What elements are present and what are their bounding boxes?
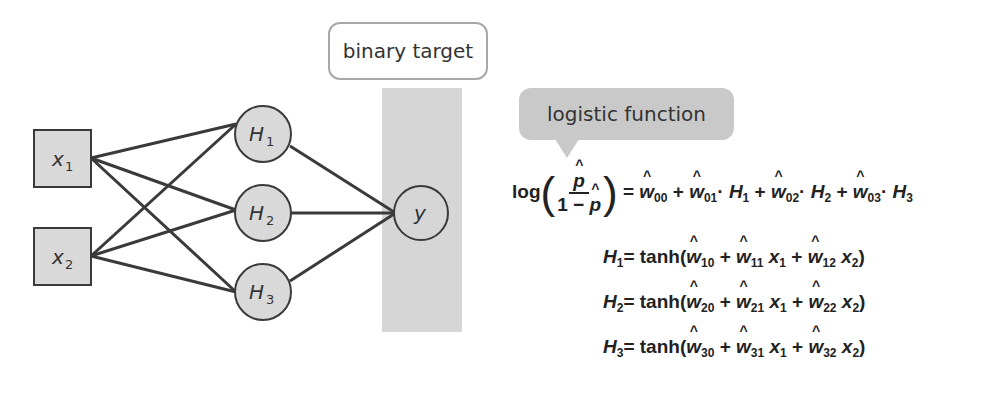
input-node-x2: x 2	[34, 228, 91, 285]
h1-equation: H1= tanh(w10 + w11 x1 + w12 x2)	[603, 246, 865, 270]
svg-text:H: H	[249, 122, 264, 146]
svg-text:2: 2	[266, 213, 274, 228]
output-node-y: y	[394, 186, 448, 240]
svg-text:H: H	[249, 201, 264, 225]
odds-fraction: p1 − p	[557, 170, 601, 216]
svg-text:2: 2	[65, 257, 73, 272]
svg-text:3: 3	[266, 292, 274, 307]
binary-target-callout: binary target	[328, 22, 488, 80]
h2-equation: H2= tanh(w20 + w21 x1 + w22 x2)	[603, 291, 865, 315]
h3-equation: H3= tanh(w30 + w31 x1 + w32 x2)	[603, 336, 865, 360]
svg-text:H: H	[249, 280, 264, 304]
svg-text:1: 1	[65, 159, 73, 174]
svg-text:1: 1	[266, 134, 274, 149]
x2-label: x	[51, 245, 64, 269]
x1-label: x	[51, 147, 64, 171]
svg-text:y: y	[413, 201, 427, 225]
hidden-node-h2: H 2	[235, 185, 291, 241]
logit-equation: log(p1 − p) = w00 + w01· H1 + w02· H2 + …	[512, 170, 913, 216]
hidden-node-h1: H 1	[235, 106, 291, 162]
callout-pointer	[553, 136, 581, 158]
logistic-function-callout: logistic function	[519, 88, 734, 140]
hidden-node-h3: H 3	[235, 264, 291, 320]
input-node-x1: x 1	[34, 130, 91, 187]
